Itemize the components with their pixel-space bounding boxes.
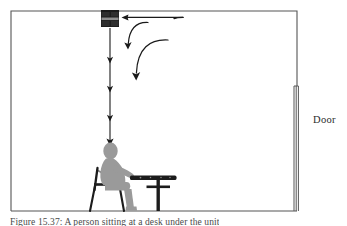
ceiling-unit-icon xyxy=(101,10,119,27)
door-label: Door xyxy=(313,114,336,125)
intake-airflow-arrow xyxy=(122,14,184,20)
room-cross-section-diagram xyxy=(0,0,347,226)
figure-container: Door Figure 15.37: A person sitting at a… xyxy=(0,0,347,226)
inner-curved-airflow-arrow xyxy=(124,22,148,49)
figure-caption: Figure 15.37: A person sitting at a desk… xyxy=(10,217,219,226)
downward-airflow-arrow xyxy=(106,28,113,146)
door xyxy=(294,86,298,211)
desk xyxy=(130,176,177,211)
room-outline xyxy=(11,11,297,211)
outer-curved-airflow-arrow xyxy=(132,40,168,81)
